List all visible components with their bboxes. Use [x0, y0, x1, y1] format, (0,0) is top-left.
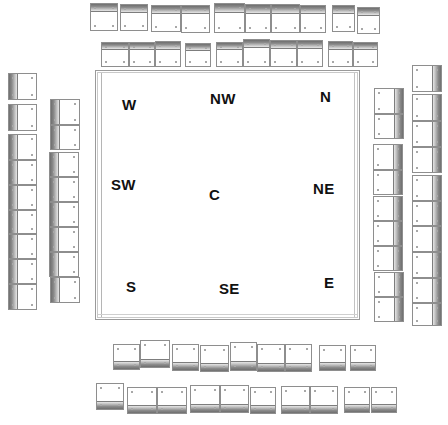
cell-corner-tick: [348, 407, 350, 409]
cell-corner-tick: [100, 404, 102, 406]
cell-corner-tick: [194, 407, 196, 409]
zone-label-c: C: [209, 186, 220, 203]
cell-corner-tick: [391, 391, 393, 393]
cell-divider-rule: [97, 401, 123, 402]
cell-corner-tick: [364, 391, 366, 393]
cell-corner-tick: [375, 407, 377, 409]
courtyard-edge-rule: [101, 73, 102, 317]
cell-corner-tick: [181, 391, 183, 393]
room-cell: [190, 385, 220, 413]
zone-label-nw: NW: [210, 90, 236, 107]
cell-corner-tick: [161, 391, 163, 393]
cell-corner-tick: [348, 391, 350, 393]
cell-corner-tick: [100, 387, 102, 389]
zone-label-ne: NE: [313, 180, 334, 197]
cell-corner-tick: [314, 390, 316, 392]
cell-divider-rule: [282, 405, 309, 406]
room-cell: [250, 387, 276, 414]
cell-corner-tick: [332, 390, 334, 392]
cell-corner-tick: [375, 391, 377, 393]
room-cell: [157, 387, 187, 414]
room-cell: [96, 383, 124, 410]
cell-corner-tick: [285, 408, 287, 410]
cell-corner-tick: [304, 408, 306, 410]
cell-divider-rule: [128, 405, 156, 406]
cell-corner-tick: [131, 391, 133, 393]
cell-corner-tick: [224, 407, 226, 409]
cell-corner-tick: [391, 407, 393, 409]
cell-corner-tick: [181, 408, 183, 410]
cell-divider-rule: [158, 405, 186, 406]
cell-corner-tick: [364, 407, 366, 409]
cell-corner-tick: [285, 390, 287, 392]
zone-label-sw: SW: [111, 176, 136, 193]
cell-corner-tick: [314, 408, 316, 410]
cell-corner-tick: [243, 389, 245, 391]
zone-label-w: W: [122, 96, 136, 113]
room-cell: [220, 385, 249, 413]
zone-label-n: N: [320, 88, 331, 105]
courtyard-edge-rule: [98, 314, 357, 315]
courtyard-edge-rule: [354, 73, 355, 317]
figure-canvas: WNWNSWCNESSEE: [0, 0, 448, 425]
cell-corner-tick: [270, 391, 272, 393]
cell-divider-rule: [345, 404, 369, 405]
zone-label-e: E: [324, 274, 334, 291]
cell-corner-tick: [243, 407, 245, 409]
cell-divider-rule: [311, 405, 337, 406]
room-cell: [371, 387, 397, 413]
cell-divider-rule: [191, 404, 219, 405]
cell-divider-rule: [251, 405, 275, 406]
zone-label-se: SE: [219, 280, 240, 297]
cell-corner-tick: [151, 408, 153, 410]
room-cell: [127, 387, 157, 414]
cell-corner-tick: [224, 389, 226, 391]
cell-corner-tick: [151, 391, 153, 393]
cell-corner-tick: [214, 389, 216, 391]
cell-corner-tick: [304, 390, 306, 392]
cell-corner-tick: [118, 404, 120, 406]
cell-corner-tick: [118, 387, 120, 389]
cell-corner-tick: [194, 389, 196, 391]
room-cell: [281, 386, 310, 414]
cell-corner-tick: [131, 408, 133, 410]
cell-corner-tick: [332, 408, 334, 410]
cell-divider-rule: [221, 404, 248, 405]
cell-corner-tick: [254, 391, 256, 393]
room-cell: [310, 386, 338, 414]
room-cell: [344, 387, 370, 413]
cell-corner-tick: [270, 408, 272, 410]
cell-corner-tick: [254, 408, 256, 410]
zone-label-s: S: [126, 278, 136, 295]
cell-divider-rule: [372, 404, 396, 405]
cell-corner-tick: [214, 407, 216, 409]
cell-corner-tick: [161, 408, 163, 410]
